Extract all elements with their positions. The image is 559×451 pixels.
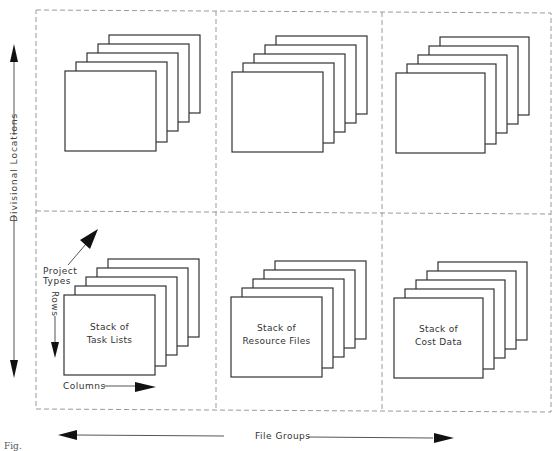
stack-bottom-middle [231,261,366,377]
arrow-left-icon [58,430,77,440]
stack-label-line1: Stack of [231,322,322,335]
axis-label-file-groups: File Groups [255,431,311,441]
legend-rows: Rows [50,291,60,315]
arrow-right-icon [434,433,454,443]
figure-caption: Fig. [4,441,22,451]
grid-row-divider [36,211,551,214]
stack-front-page [65,71,156,151]
stack-label-line2: Cost Data [394,336,483,349]
axis-label-divisional-locations: Divisional Locations [9,126,19,222]
stack-label-task-lists: Stack of Task Lists [64,321,155,347]
stack-front-page [396,73,485,153]
stack-bottom-left [64,259,199,375]
project-types-arrow [68,229,98,265]
stack-label-resource-files: Stack of Resource Files [231,322,322,348]
stack-label-line1: Stack of [394,323,483,336]
stack-top-left [65,35,200,151]
arrow-down-icon [51,342,59,358]
stack-label-line2: Task Lists [64,334,155,347]
stack-bottom-right [394,262,527,378]
columns-arrow [104,382,156,392]
rows-arrow [51,316,59,358]
arrow-diagonal-icon [80,229,98,249]
stack-top-right [396,37,529,153]
arrow-right-icon [135,382,156,392]
legend-project-types: Project Types [43,266,83,286]
legend-columns: Columns [63,381,106,391]
stack-label-line2: Resource Files [231,335,322,348]
stack-label-cost-data: Stack of Cost Data [394,323,483,349]
stack-top-middle [232,36,367,152]
arrow-down-icon [10,360,18,378]
stack-front-page [232,72,323,152]
stack-label-line1: Stack of [64,321,155,334]
arrow-up-icon [10,44,18,62]
